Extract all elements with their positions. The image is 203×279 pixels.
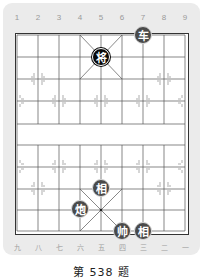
red-cannon-piece[interactable]: 炮 xyxy=(71,200,89,218)
column-label-bottom: 六 xyxy=(73,242,87,252)
puzzle-caption: 第 538 题 xyxy=(0,263,203,279)
column-label-bottom: 五 xyxy=(94,242,108,252)
column-label-bottom: 三 xyxy=(136,242,150,252)
red-general-piece[interactable]: 帅 xyxy=(113,222,131,240)
column-label-bottom: 一 xyxy=(178,242,192,252)
column-label-bottom: 九 xyxy=(10,242,24,252)
column-label-bottom: 七 xyxy=(52,242,66,252)
column-label-bottom: 二 xyxy=(157,242,171,252)
red-elephant-piece[interactable]: 相 xyxy=(134,222,152,240)
column-label-bottom: 八 xyxy=(31,242,45,252)
black-general-piece[interactable]: 将 xyxy=(92,48,110,66)
column-label-bottom: 四 xyxy=(115,242,129,252)
red-chariot-piece[interactable]: 车 xyxy=(134,26,152,44)
red-elephant-piece[interactable]: 相 xyxy=(92,179,110,197)
